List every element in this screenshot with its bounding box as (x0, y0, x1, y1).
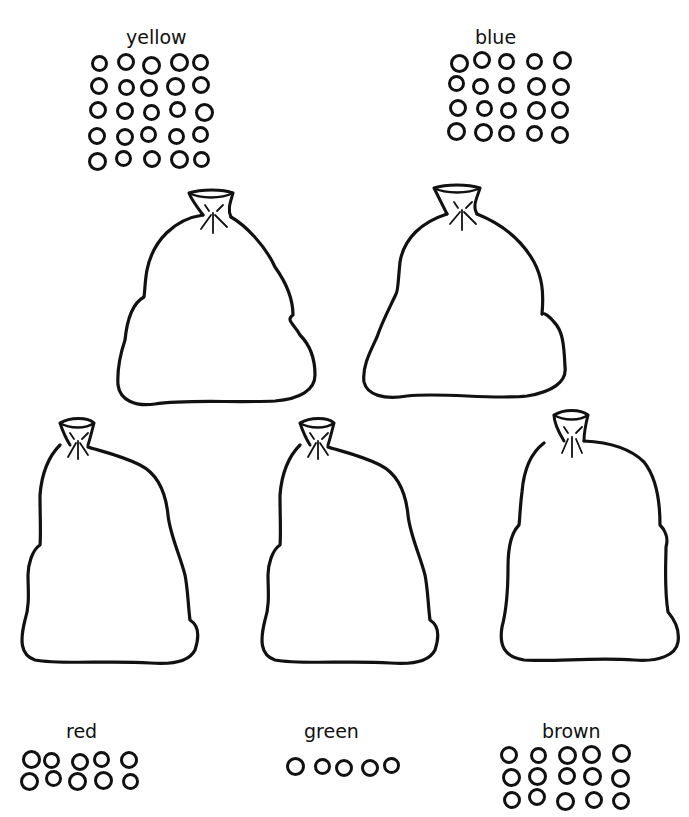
sack-outline-icon (115, 185, 320, 411)
counter-circle (195, 103, 214, 122)
counter-circle (116, 128, 134, 146)
group-label-green: green (304, 720, 359, 742)
counter-circle (166, 77, 185, 96)
counter-circle (94, 771, 113, 790)
counter-circle (551, 126, 569, 144)
counter-circle (170, 53, 189, 72)
counter-circle (68, 772, 87, 791)
counter-circle (170, 150, 189, 169)
counter-circle (585, 791, 603, 809)
counter-circle (88, 127, 106, 145)
counter-circle (503, 791, 521, 809)
counter-circle (169, 101, 186, 118)
counter-circle (140, 126, 157, 143)
counter-circle (530, 747, 547, 764)
counter-circle (122, 773, 139, 790)
counter-circle (314, 758, 331, 775)
counter-circle (142, 56, 161, 75)
counter-circle (551, 101, 569, 119)
counter-circle (361, 759, 379, 777)
counter-circle (22, 750, 41, 769)
counter-circle (448, 75, 465, 92)
counter-circle (474, 123, 493, 142)
counter-circle (88, 152, 107, 171)
counter-circle (558, 767, 576, 785)
counter-circle (45, 770, 62, 787)
counter-circle (193, 151, 210, 168)
sack-3[interactable] (10, 415, 210, 670)
counter-circle (449, 99, 467, 117)
counter-circle (118, 79, 135, 96)
counter-circle (20, 772, 39, 791)
counter-group-yellow: yellow (88, 24, 238, 174)
counter-circle (498, 77, 515, 94)
counter-circle (498, 125, 515, 142)
counter-circle (552, 78, 570, 96)
counter-circle (558, 746, 577, 765)
sack-outline-icon (250, 415, 450, 670)
counter-circle (168, 128, 185, 145)
group-label-red: red (66, 720, 97, 742)
sack-4[interactable] (250, 415, 450, 670)
counter-circle (556, 792, 575, 811)
group-label-yellow: yellow (126, 26, 187, 48)
counter-circle (612, 792, 630, 810)
counter-circle (192, 54, 209, 71)
counter-circle (472, 78, 489, 95)
counter-circle (500, 102, 517, 119)
counter-circle (526, 125, 543, 142)
sack-outline-icon (362, 182, 567, 408)
counter-circle (335, 759, 353, 777)
counter-circle (383, 757, 400, 774)
counter-circle (71, 753, 89, 771)
sack-2[interactable] (362, 182, 567, 408)
counter-circle (447, 122, 466, 141)
cutoff-instruction-text (0, 0, 689, 4)
counter-circle (117, 53, 135, 71)
counter-circle (140, 79, 158, 97)
counter-circle (116, 102, 134, 120)
group-label-brown: brown (542, 720, 601, 742)
counter-circle (90, 77, 108, 95)
counter-circle (528, 767, 547, 786)
counter-circle (553, 51, 572, 70)
counter-group-brown: brown (500, 718, 650, 817)
counter-circle (528, 788, 546, 806)
counter-circle (115, 150, 132, 167)
counter-circle (450, 54, 469, 73)
counter-circle (91, 55, 108, 72)
counter-circle (498, 53, 515, 70)
counter-circle (583, 767, 602, 786)
counter-group-red: red (18, 718, 168, 808)
counter-circle (611, 769, 630, 788)
counter-circle (43, 752, 60, 769)
counter-group-green: green (286, 718, 426, 788)
counter-circle (527, 101, 546, 120)
counter-circle (473, 51, 491, 69)
counter-circle (143, 150, 161, 168)
counter-group-blue: blue (445, 24, 595, 154)
counter-circle (192, 76, 210, 94)
counter-circle (527, 77, 546, 96)
sack-1[interactable] (115, 185, 320, 411)
counter-circle (192, 126, 209, 143)
sack-outline-icon (484, 407, 684, 667)
sack-outline-icon (10, 415, 210, 670)
sack-5[interactable] (484, 407, 684, 667)
group-label-blue: blue (475, 26, 516, 48)
counter-circle (286, 757, 305, 776)
counter-circle (502, 768, 521, 787)
counter-circle (93, 751, 110, 768)
counter-circle (143, 104, 160, 121)
counter-circle (89, 101, 107, 119)
counter-circle (582, 745, 601, 764)
counter-circle (500, 746, 518, 764)
counter-circle (120, 751, 138, 769)
counter-circle (476, 100, 493, 117)
counter-circle (526, 53, 543, 70)
counter-circle (612, 744, 631, 763)
